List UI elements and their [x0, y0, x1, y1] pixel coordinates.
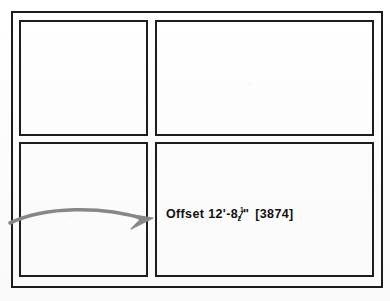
- viewport-panel-top-left[interactable]: [19, 20, 148, 136]
- drawing-canvas: Offset 12' - 8 1 2 " [3874]: [0, 0, 390, 301]
- viewport-panel-top-right[interactable]: [155, 20, 374, 136]
- fraction-denominator: 2: [237, 216, 241, 223]
- annotation-feet: 12': [208, 208, 226, 221]
- viewport-panel-bottom-left[interactable]: [19, 142, 148, 277]
- annotation-fraction: 1 2: [238, 208, 243, 221]
- offset-annotation-label: Offset 12' - 8 1 2 " [3874]: [166, 208, 294, 221]
- annotation-metric-value: [3874]: [255, 208, 293, 221]
- annotation-prefix: Offset: [166, 208, 204, 221]
